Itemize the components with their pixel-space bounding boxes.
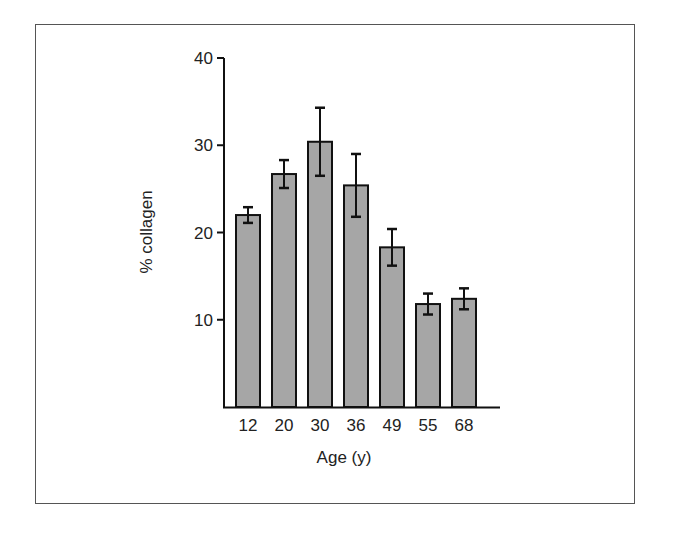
y-tick-label: 30 xyxy=(194,136,213,155)
x-tick-label: 68 xyxy=(455,416,474,435)
bar-chart: 10203040 12203036495568 Age (y) % collag… xyxy=(0,0,673,537)
bar-age-12 xyxy=(236,215,260,407)
bar-age-20 xyxy=(272,174,296,407)
y-axis-title: % collagen xyxy=(137,190,156,273)
bar-age-36 xyxy=(344,185,368,407)
x-tick-label: 20 xyxy=(275,416,294,435)
x-tick-label: 36 xyxy=(347,416,366,435)
y-ticks-group: 10203040 xyxy=(194,49,224,330)
bar-age-55 xyxy=(416,304,440,407)
y-tick-label: 40 xyxy=(194,49,213,68)
x-ticks-group: 12203036495568 xyxy=(239,416,474,435)
bar-age-49 xyxy=(380,247,404,407)
x-tick-label: 49 xyxy=(383,416,402,435)
x-axis-title: Age (y) xyxy=(317,448,372,467)
x-tick-label: 12 xyxy=(239,416,258,435)
y-tick-label: 10 xyxy=(194,311,213,330)
bar-age-30 xyxy=(308,142,332,407)
x-tick-label: 55 xyxy=(419,416,438,435)
y-tick-label: 20 xyxy=(194,224,213,243)
bar-age-68 xyxy=(452,299,476,407)
x-tick-label: 30 xyxy=(311,416,330,435)
